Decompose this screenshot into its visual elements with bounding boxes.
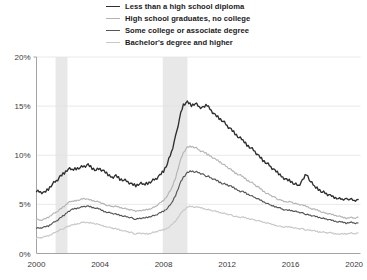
plot-area: 0%5%10%15%20% 200020042008201220162020 [0,0,367,280]
x-tick-label: 2020 [345,260,363,269]
y-tick-label: 0% [19,250,31,259]
data-series [37,101,359,238]
y-tick-label: 10% [14,151,30,160]
x-tick-label: 2008 [155,260,173,269]
x-tick-label: 2004 [91,260,109,269]
unemployment-by-education-chart: Less than a high school diplomaHigh scho… [0,0,367,280]
y-tick-label: 20% [14,53,30,62]
y-axis-tick-labels: 0%5%10%15%20% [14,53,30,259]
series-line [37,146,359,221]
x-tick-label: 2012 [218,260,236,269]
chart-svg: 0%5%10%15%20% 200020042008201220162020 [0,0,367,280]
y-tick-label: 15% [14,102,30,111]
x-tick-label: 2016 [282,260,300,269]
series-line [37,101,359,201]
series-line [37,206,359,238]
x-axis-tick-labels: 200020042008201220162020 [28,260,364,269]
y-tick-label: 5% [19,200,31,209]
x-tick-label: 2000 [28,260,46,269]
